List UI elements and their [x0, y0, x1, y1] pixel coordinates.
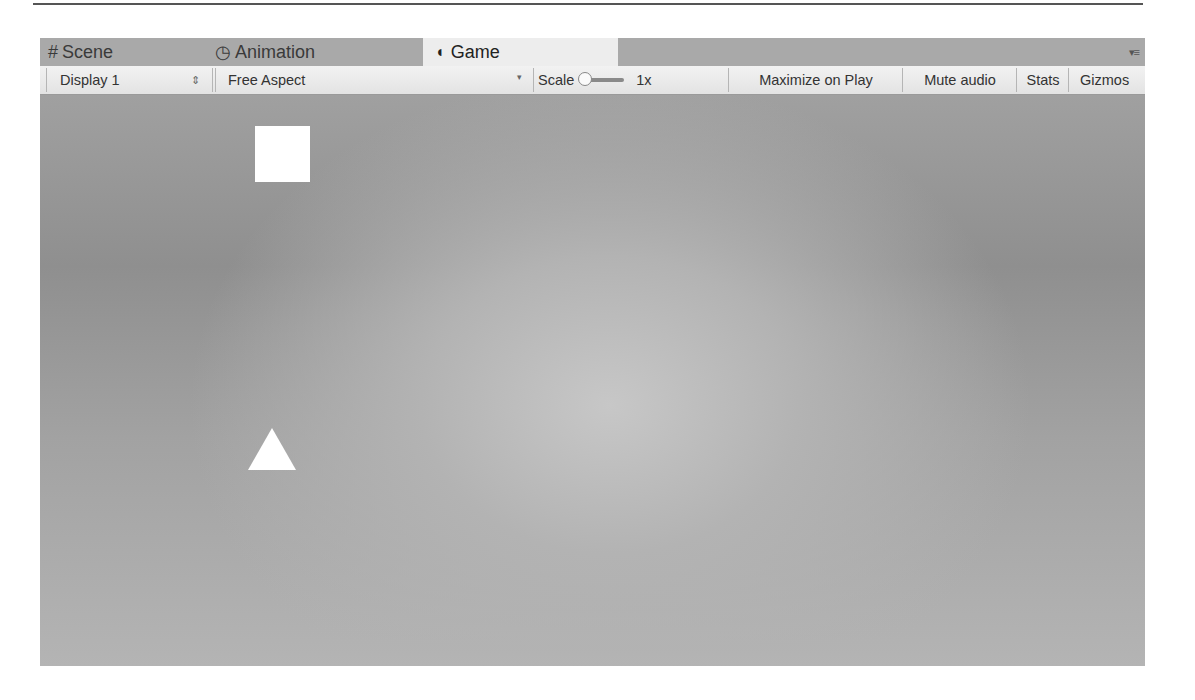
- clock-icon: ◷: [215, 41, 231, 63]
- game-window: # Scene ◷ Animation ◖ Game ▾≡ Display 1 …: [40, 38, 1145, 666]
- toolbar-separator: [1016, 68, 1017, 92]
- aspect-value: Free Aspect: [228, 72, 305, 88]
- top-divider: [33, 3, 1143, 5]
- tab-animation[interactable]: ◷ Animation: [215, 38, 315, 66]
- maximize-on-play-button[interactable]: Maximize on Play: [730, 66, 902, 94]
- toolbar-separator: [46, 68, 47, 92]
- scene-grid-icon: #: [48, 42, 58, 63]
- mute-audio-button[interactable]: Mute audio: [904, 66, 1016, 94]
- gizmos-button[interactable]: Gizmos: [1070, 66, 1145, 94]
- aspect-dropdown[interactable]: Free Aspect ▾: [216, 66, 528, 94]
- panel-menu-icon[interactable]: ▾≡: [1129, 46, 1139, 59]
- tab-scene[interactable]: # Scene: [48, 38, 113, 66]
- scale-slider[interactable]: [582, 78, 624, 82]
- toolbar-separator: [728, 68, 729, 92]
- toolbar-separator: [1068, 68, 1069, 92]
- tab-bar: # Scene ◷ Animation ◖ Game ▾≡: [40, 38, 1145, 66]
- scale-label: Scale: [538, 72, 574, 88]
- scale-value: 1x: [636, 72, 651, 88]
- tab-label: Scene: [62, 42, 113, 63]
- game-toolbar: Display 1 ⇕ Free Aspect ▾ Scale 1x Maxim…: [40, 66, 1145, 95]
- game-pacman-icon: ◖: [435, 43, 445, 61]
- white-triangle-sprite: [248, 428, 296, 470]
- toolbar-separator: [902, 68, 903, 92]
- tab-label: Game: [451, 42, 500, 63]
- tab-game[interactable]: ◖ Game: [423, 38, 618, 66]
- display-dropdown[interactable]: Display 1 ⇕: [48, 66, 208, 94]
- updown-arrows-icon: ⇕: [191, 74, 200, 87]
- game-viewport[interactable]: [40, 95, 1145, 666]
- toolbar-separator: [533, 68, 534, 92]
- chevron-down-icon: ▾: [517, 72, 522, 82]
- tab-label: Animation: [235, 42, 315, 63]
- scale-control: Scale 1x: [536, 66, 726, 94]
- toolbar-separator: [212, 68, 213, 92]
- slider-thumb[interactable]: [578, 72, 592, 86]
- stats-button[interactable]: Stats: [1018, 66, 1068, 94]
- display-value: Display 1: [60, 72, 120, 88]
- white-square-sprite: [255, 126, 310, 182]
